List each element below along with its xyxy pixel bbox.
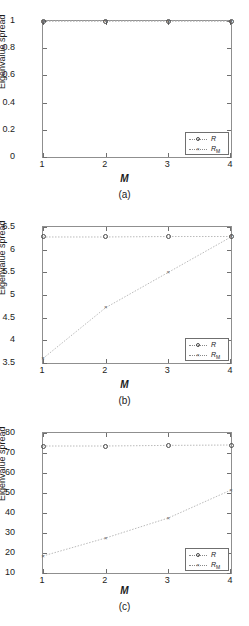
y-tick-mark-right bbox=[227, 473, 231, 474]
y-tick-mark-right bbox=[227, 75, 231, 76]
legend-row-rm: ×RM bbox=[186, 350, 228, 360]
legend-row-rm: ×RM bbox=[186, 144, 228, 154]
legend-label-rm: RM bbox=[211, 560, 220, 572]
x-tick-label: 3 bbox=[165, 366, 170, 375]
y-tick-mark-right bbox=[227, 272, 231, 273]
legend[interactable]: R×RM bbox=[185, 132, 229, 155]
y-tick-label: 0 bbox=[10, 152, 15, 161]
x-tick-mark bbox=[168, 359, 169, 363]
panel-a: Eigenvalue spread ××××R×RM M (a) 00.20.4… bbox=[0, 0, 249, 208]
y-tick-mark-right bbox=[227, 363, 231, 364]
legend-label-r: R bbox=[211, 134, 216, 144]
y-tick-mark-right bbox=[227, 295, 231, 296]
circle-marker-icon bbox=[196, 137, 200, 141]
legend-label-r: R bbox=[211, 550, 216, 560]
data-point-rm: × bbox=[103, 19, 108, 24]
data-point-rm: × bbox=[41, 554, 46, 559]
y-tick-mark bbox=[43, 453, 47, 454]
legend-label-rm: RM bbox=[211, 350, 220, 362]
circle-marker-icon bbox=[196, 343, 200, 347]
legend-row-r: R bbox=[186, 340, 228, 350]
legend-row-r: R bbox=[186, 550, 228, 560]
y-tick-mark bbox=[43, 48, 47, 49]
y-tick-label: 6.5 bbox=[2, 222, 15, 231]
data-point-rm: × bbox=[103, 305, 108, 310]
y-tick-mark bbox=[43, 157, 47, 158]
y-tick-mark bbox=[43, 363, 47, 364]
y-tick-label: 5.5 bbox=[2, 267, 15, 276]
data-point-rm: × bbox=[41, 19, 46, 24]
legend-sample-r bbox=[189, 340, 207, 350]
y-tick-mark bbox=[43, 533, 47, 534]
x-tick-mark bbox=[168, 569, 169, 573]
y-tick-mark-right bbox=[227, 493, 231, 494]
x-tick-mark-top bbox=[43, 433, 44, 437]
y-tick-label: 60 bbox=[5, 468, 15, 477]
multi-panel-figure: Eigenvalue spread ××××R×RM M (a) 00.20.4… bbox=[0, 0, 249, 626]
data-point-r bbox=[41, 234, 46, 239]
y-tick-label: 5 bbox=[10, 290, 15, 299]
y-tick-mark bbox=[43, 340, 47, 341]
x-tick-mark-top bbox=[43, 227, 44, 231]
data-point-r bbox=[166, 234, 171, 239]
y-tick-label: 0.4 bbox=[2, 97, 15, 106]
y-axis-title: Eigenvalue spread bbox=[0, 220, 7, 295]
x-tick-mark-top bbox=[106, 227, 107, 231]
y-tick-label: 0.2 bbox=[2, 124, 15, 133]
legend-label-rm: RM bbox=[211, 144, 220, 156]
x-tick-label: 2 bbox=[102, 366, 107, 375]
legend-sample-rm: × bbox=[189, 350, 207, 360]
y-tick-label: 10 bbox=[5, 568, 15, 577]
data-point-r bbox=[103, 444, 108, 449]
legend-sample-r bbox=[189, 134, 207, 144]
y-tick-mark bbox=[43, 318, 47, 319]
panel-caption-c: (c) bbox=[0, 601, 249, 612]
panel-caption-a: (a) bbox=[0, 189, 249, 200]
data-point-r bbox=[41, 444, 46, 449]
legend-label-rm-subscript: M bbox=[216, 148, 220, 154]
legend-sample-rm: × bbox=[189, 144, 207, 154]
plot-area-a: ××××R×RM bbox=[42, 20, 232, 158]
data-point-rm: × bbox=[166, 19, 171, 24]
y-tick-mark-right bbox=[227, 250, 231, 251]
x-marker-icon: × bbox=[195, 560, 201, 570]
legend-row-r: R bbox=[186, 134, 228, 144]
x-tick-label: 3 bbox=[165, 576, 170, 585]
x-tick-mark bbox=[230, 569, 231, 573]
panel-b: Eigenvalue spread ××××R×RM M (b) 3.544.5… bbox=[0, 206, 249, 414]
x-tick-label: 2 bbox=[102, 160, 107, 169]
y-tick-label: 4 bbox=[10, 335, 15, 344]
x-tick-label: 3 bbox=[165, 160, 170, 169]
y-tick-mark-right bbox=[227, 453, 231, 454]
x-tick-mark bbox=[43, 153, 44, 157]
legend[interactable]: R×RM bbox=[185, 338, 229, 361]
legend-label-rm-subscript: M bbox=[216, 564, 220, 570]
y-tick-mark-right bbox=[227, 573, 231, 574]
y-tick-mark-right bbox=[227, 513, 231, 514]
data-point-rm: × bbox=[229, 234, 234, 239]
y-tick-label: 4.5 bbox=[2, 312, 15, 321]
x-tick-mark-top bbox=[106, 433, 107, 437]
legend-sample-rm: × bbox=[189, 560, 207, 570]
x-tick-label: 2 bbox=[102, 576, 107, 585]
y-tick-mark bbox=[43, 130, 47, 131]
data-point-rm: × bbox=[166, 270, 171, 275]
circle-marker-icon bbox=[196, 553, 200, 557]
x-tick-mark-top bbox=[168, 227, 169, 231]
x-tick-label: 1 bbox=[39, 366, 44, 375]
y-tick-label: 6 bbox=[10, 244, 15, 253]
legend[interactable]: R×RM bbox=[185, 548, 229, 571]
legend-sample-r bbox=[189, 550, 207, 560]
y-tick-mark bbox=[43, 103, 47, 104]
data-point-rm: × bbox=[41, 356, 46, 361]
y-tick-mark bbox=[43, 250, 47, 251]
x-tick-mark-top bbox=[168, 433, 169, 437]
legend-row-rm: ×RM bbox=[186, 560, 228, 570]
y-tick-mark-right bbox=[227, 533, 231, 534]
x-tick-mark bbox=[230, 359, 231, 363]
y-tick-label: 0.8 bbox=[2, 43, 15, 52]
y-tick-label: 1 bbox=[10, 16, 15, 25]
y-tick-label: 20 bbox=[5, 548, 15, 557]
x-marker-icon: × bbox=[195, 350, 201, 360]
y-tick-label: 50 bbox=[5, 488, 15, 497]
